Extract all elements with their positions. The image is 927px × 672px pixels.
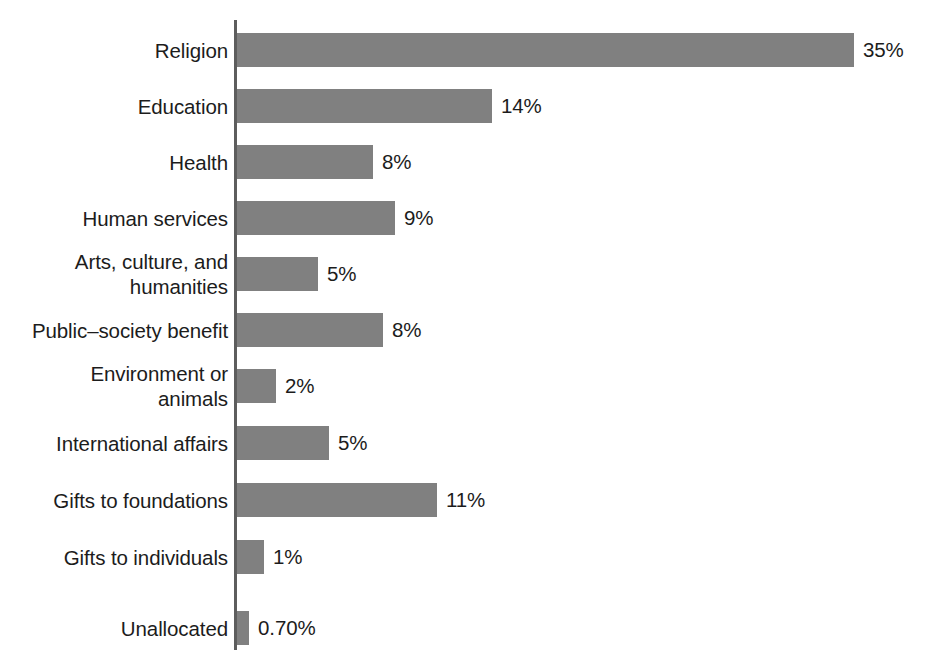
category-label: Public–society benefit (0, 318, 228, 343)
bar-value-label: 5% (338, 426, 367, 460)
category-label: Gifts to foundations (0, 488, 228, 513)
category-label: International affairs (0, 431, 228, 456)
bar-row[interactable]: International affairs5% (0, 426, 927, 460)
bar-row[interactable]: Public–society benefit8% (0, 313, 927, 347)
bar[interactable] (237, 611, 249, 645)
bar-with-value: 5% (237, 257, 356, 291)
bar-with-value: 8% (237, 145, 411, 179)
bar-row[interactable]: Education14% (0, 89, 927, 123)
category-label: Unallocated (0, 616, 228, 641)
bar[interactable] (237, 257, 318, 291)
bar-row[interactable]: Environment or animals2% (0, 369, 927, 403)
bar-value-label: 9% (404, 201, 433, 235)
bar-chart: Religion35%Education14%Health8%Human ser… (0, 0, 927, 672)
bar[interactable] (237, 313, 383, 347)
bar-with-value: 5% (237, 426, 367, 460)
category-label: Health (0, 150, 228, 175)
bar[interactable] (237, 540, 264, 574)
bar-value-label: 11% (446, 483, 485, 517)
bar-value-label: 8% (382, 145, 411, 179)
category-label: Education (0, 94, 228, 119)
bar-with-value: 2% (237, 369, 314, 403)
bar[interactable] (237, 201, 395, 235)
bar-with-value: 0.70% (237, 611, 316, 645)
bar[interactable] (237, 145, 373, 179)
bar-with-value: 9% (237, 201, 433, 235)
bar-value-label: 14% (501, 89, 542, 123)
bar-rows-container: Religion35%Education14%Health8%Human ser… (0, 0, 927, 672)
category-label: Arts, culture, and humanities (0, 249, 228, 299)
category-label: Religion (0, 38, 228, 63)
bar-value-label: 8% (392, 313, 421, 347)
bar[interactable] (237, 483, 437, 517)
bar[interactable] (237, 33, 854, 67)
bar-value-label: 0.70% (258, 611, 316, 645)
bar-row[interactable]: Health8% (0, 145, 927, 179)
bar-value-label: 35% (863, 33, 904, 67)
bar[interactable] (237, 89, 492, 123)
category-label: Environment or animals (0, 361, 228, 411)
bar-value-label: 5% (327, 257, 356, 291)
category-label: Human services (0, 206, 228, 231)
bar-value-label: 1% (273, 540, 302, 574)
bar-with-value: 8% (237, 313, 421, 347)
category-label: Gifts to individuals (0, 545, 228, 570)
bar[interactable] (237, 369, 276, 403)
bar-row[interactable]: Gifts to foundations11% (0, 483, 927, 517)
bar-with-value: 1% (237, 540, 302, 574)
bar-row[interactable]: Religion35% (0, 33, 927, 67)
bar-with-value: 35% (237, 33, 904, 67)
bar-row[interactable]: Unallocated0.70% (0, 611, 927, 645)
bar-with-value: 14% (237, 89, 542, 123)
bar-value-label: 2% (285, 369, 314, 403)
bar[interactable] (237, 426, 329, 460)
bar-row[interactable]: Human services9% (0, 201, 927, 235)
bar-with-value: 11% (237, 483, 485, 517)
bar-row[interactable]: Gifts to individuals1% (0, 540, 927, 574)
bar-row[interactable]: Arts, culture, and humanities5% (0, 257, 927, 291)
